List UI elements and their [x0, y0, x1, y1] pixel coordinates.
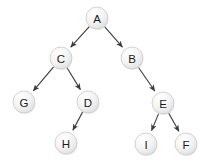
tree-edge-b-e	[139, 67, 155, 91]
tree-node-f[interactable]: F	[175, 133, 197, 156]
tree-diagram-canvas: ACBGDEHIF	[0, 0, 210, 167]
node-label-h: H	[62, 138, 70, 150]
tree-edge-e-i	[152, 114, 159, 131]
tree-edge-a-b	[105, 27, 123, 47]
tree-edge-a-c	[71, 27, 90, 48]
node-label-d: D	[84, 97, 92, 109]
node-label-f: F	[182, 139, 189, 151]
tree-node-i[interactable]: I	[135, 133, 157, 156]
tree-edge-e-f	[169, 113, 179, 131]
tree-node-e[interactable]: E	[152, 92, 174, 115]
node-label-c: C	[57, 53, 65, 65]
tree-edge-c-d	[67, 68, 80, 90]
tree-node-b[interactable]: B	[121, 47, 143, 70]
tree-node-d[interactable]: D	[77, 91, 99, 114]
tree-node-g[interactable]: G	[13, 91, 35, 114]
tree-edge-d-h	[73, 112, 83, 130]
tree-node-h[interactable]: H	[55, 132, 77, 155]
node-label-b: B	[128, 53, 136, 65]
edges-layer	[33, 27, 179, 132]
node-label-a: A	[93, 13, 101, 25]
node-label-i: I	[144, 139, 147, 151]
tree-diagram-svg: ACBGDEHIF	[0, 0, 210, 167]
node-label-e: E	[159, 98, 167, 110]
tree-edge-c-g	[33, 67, 53, 91]
node-label-g: G	[20, 97, 29, 109]
